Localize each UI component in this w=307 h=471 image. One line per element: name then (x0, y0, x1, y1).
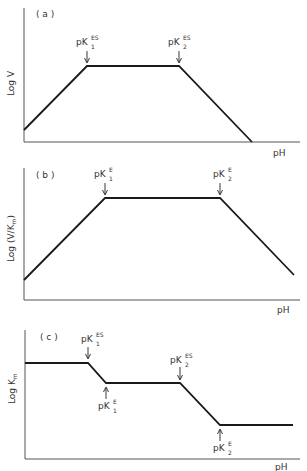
panel-tag: ( a ) (36, 9, 54, 19)
svg-text:pK: pK (213, 443, 226, 453)
annotation-pk1-es: pK ES 1 (81, 331, 104, 359)
x-axis-label: pH (277, 305, 289, 315)
svg-text:pK: pK (170, 355, 183, 365)
annotation-pk2-es: pK ES 2 (170, 352, 193, 380)
svg-text:E: E (228, 440, 232, 447)
svg-text:2: 2 (228, 449, 232, 456)
panel-tag: ( b ) (36, 170, 54, 180)
svg-text:1: 1 (113, 407, 117, 414)
svg-text:ES: ES (96, 331, 104, 338)
y-axis-label: Log (V/Km) (6, 215, 17, 262)
annotation-pk1-e: pK E 1 (98, 387, 117, 414)
svg-text:2: 2 (228, 175, 232, 182)
annotation-pk2-e: pK E 2 (213, 429, 232, 456)
svg-text:2: 2 (185, 361, 189, 368)
svg-text:1: 1 (96, 340, 100, 347)
panel-b: ( b ) Log (V/Km) pH pK E 1 pK E 2 (6, 166, 300, 315)
svg-text:E: E (113, 398, 117, 405)
panel-c: ( c ) Log Km pH pK ES 1 pK E 1 pK ES 2 (7, 330, 300, 471)
svg-text:pK: pK (81, 334, 94, 344)
svg-text:pK: pK (76, 37, 89, 47)
svg-text:1: 1 (109, 175, 113, 182)
annotation-pk2-e: pK E 2 (213, 166, 232, 195)
annotation-pk2-es: pK ES 2 (168, 34, 191, 63)
svg-text:pK: pK (213, 169, 226, 179)
annotation-pk1-es: pK ES 1 (76, 34, 99, 63)
svg-text:pK: pK (94, 169, 107, 179)
svg-text:1: 1 (91, 43, 95, 50)
svg-text:ES: ES (91, 34, 99, 41)
svg-text:E: E (109, 166, 113, 173)
svg-text:ES: ES (183, 34, 191, 41)
x-axis-label: pH (275, 462, 287, 471)
x-axis-label: pH (273, 148, 285, 158)
svg-text:pK: pK (98, 401, 111, 411)
panel-tag: ( c ) (40, 332, 58, 342)
data-line (24, 198, 294, 280)
svg-text:pK: pK (168, 37, 181, 47)
y-axis-label: Log V (6, 70, 16, 96)
data-line (24, 66, 252, 142)
y-axis-label: Log Km (7, 373, 18, 404)
svg-text:ES: ES (185, 352, 193, 359)
panel-a: ( a ) Log V pH pK ES 1 pK ES 2 (6, 8, 300, 158)
svg-text:E: E (228, 166, 232, 173)
ph-dependence-figure: ( a ) Log V pH pK ES 1 pK ES 2 ( b ) Log… (0, 0, 307, 471)
data-line (25, 363, 293, 425)
svg-text:2: 2 (183, 43, 187, 50)
annotation-pk1-e: pK E 1 (94, 166, 113, 195)
